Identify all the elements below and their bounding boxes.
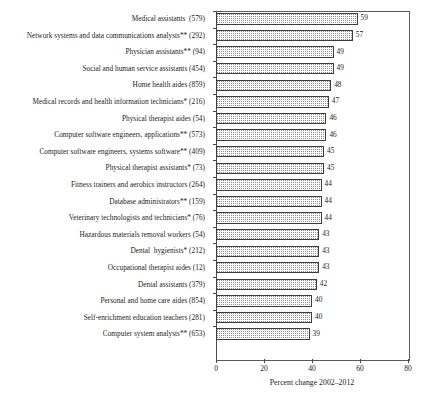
- bar-row: 45: [216, 144, 408, 161]
- category-label: Veterinary technologists and technicians…: [0, 210, 210, 227]
- y-tick: [213, 61, 216, 62]
- bar-value-label: 40: [315, 294, 322, 306]
- bar-row: 40: [216, 310, 408, 327]
- bar: [216, 129, 326, 140]
- bar-row: 43: [216, 243, 408, 260]
- bar-value-label: 47: [332, 95, 339, 107]
- bar-row: 43: [216, 227, 408, 244]
- y-tick: [213, 177, 216, 178]
- category-label: Dental hygienists* (212): [0, 243, 210, 260]
- x-tick-label: 20: [260, 363, 268, 374]
- bar-value-label: 59: [361, 12, 368, 24]
- y-tick: [213, 210, 216, 211]
- category-label: Computer software engineers, systems sof…: [0, 144, 210, 161]
- category-label: Fitness trainers and aerobics instructor…: [0, 177, 210, 194]
- bar: [216, 179, 322, 190]
- bar-row: 40: [216, 293, 408, 310]
- category-label: Social and human service assistants (454…: [0, 61, 210, 78]
- bar: [216, 295, 312, 306]
- category-label: Physical therapist aides (54): [0, 111, 210, 128]
- horizontal-bar-chart: Medical assistants (579) Network systems…: [0, 0, 428, 401]
- bar-value-label: 46: [329, 112, 336, 124]
- bar-value-label: 44: [325, 178, 332, 190]
- bar-row: 45: [216, 160, 408, 177]
- y-tick: [213, 293, 216, 294]
- x-tick-label: 0: [214, 363, 218, 374]
- y-tick: [213, 310, 216, 311]
- bar-row: 44: [216, 210, 408, 227]
- y-tick: [213, 77, 216, 78]
- x-tick-label: 80: [404, 363, 412, 374]
- bar: [216, 262, 319, 273]
- bar-value-label: 43: [322, 261, 329, 273]
- y-tick: [213, 260, 216, 261]
- bar: [216, 229, 319, 240]
- category-labels: Medical assistants (579) Network systems…: [0, 11, 210, 343]
- bar: [216, 146, 324, 157]
- bar-value-label: 44: [325, 212, 332, 224]
- y-tick: [213, 111, 216, 112]
- y-tick: [213, 160, 216, 161]
- category-label: Dental assistants (379): [0, 277, 210, 294]
- bar-value-label: 49: [337, 62, 344, 74]
- bar-value-label: 49: [337, 46, 344, 58]
- bar-value-label: 42: [320, 278, 327, 290]
- bar: [216, 96, 329, 107]
- bar-value-label: 48: [334, 79, 341, 91]
- bar-row: 39: [216, 326, 408, 343]
- category-label: Computer software engineers, application…: [0, 127, 210, 144]
- bar: [216, 312, 312, 323]
- bar-row: 46: [216, 127, 408, 144]
- category-label: Self-enrichment education teachers (281): [0, 310, 210, 327]
- bar: [216, 328, 310, 339]
- bar-value-label: 45: [327, 145, 334, 157]
- y-tick: [213, 194, 216, 195]
- category-label: Occupational therapist aides (12): [0, 260, 210, 277]
- category-label: Hazardous materials removal workers (54): [0, 227, 210, 244]
- x-axis-title: Percent change 2002–2012: [216, 378, 408, 387]
- x-tick-label: 40: [308, 363, 316, 374]
- y-tick: [213, 243, 216, 244]
- bar: [216, 196, 322, 207]
- bar: [216, 46, 334, 57]
- bar-row: 47: [216, 94, 408, 111]
- bar-value-label: 39: [313, 328, 320, 340]
- bar-row: 43: [216, 260, 408, 277]
- y-tick: [213, 44, 216, 45]
- bar-row: 48: [216, 77, 408, 94]
- bar: [216, 80, 331, 91]
- category-label: Physical therapist assistants* (73): [0, 160, 210, 177]
- bar-value-label: 45: [327, 162, 334, 174]
- y-tick: [213, 227, 216, 228]
- category-label: Network systems and data communications …: [0, 28, 210, 45]
- category-label: Physician assistants** (94): [0, 44, 210, 61]
- bar: [216, 163, 324, 174]
- bar-row: 44: [216, 177, 408, 194]
- bar-value-label: 40: [315, 311, 322, 323]
- y-tick: [213, 127, 216, 128]
- y-tick: [213, 28, 216, 29]
- x-axis-tick-labels: 0 20 40 60 80: [216, 363, 408, 375]
- bar: [216, 246, 319, 257]
- bar-row: 49: [216, 61, 408, 78]
- bar: [216, 63, 334, 74]
- y-tick: [213, 144, 216, 145]
- bar-row: 44: [216, 194, 408, 211]
- bar-row: 59: [216, 11, 408, 28]
- category-label: Medical assistants (579): [0, 11, 210, 28]
- y-tick: [213, 277, 216, 278]
- bar-row: 49: [216, 44, 408, 61]
- bar-value-label: 43: [322, 245, 329, 257]
- y-tick: [213, 94, 216, 95]
- y-tick: [213, 326, 216, 327]
- bar: [216, 113, 326, 124]
- bar: [216, 212, 322, 223]
- bar: [216, 13, 358, 24]
- category-label: Personal and home care aides (854): [0, 293, 210, 310]
- category-label: Home health aides (859): [0, 77, 210, 94]
- x-tick-label: 60: [356, 363, 364, 374]
- bar-value-label: 57: [356, 29, 363, 41]
- bar-row: 42: [216, 277, 408, 294]
- bars-layer: 59 57 49 49 48 47 46 46 45 45 44 44 44 4…: [216, 11, 408, 359]
- bar: [216, 279, 317, 290]
